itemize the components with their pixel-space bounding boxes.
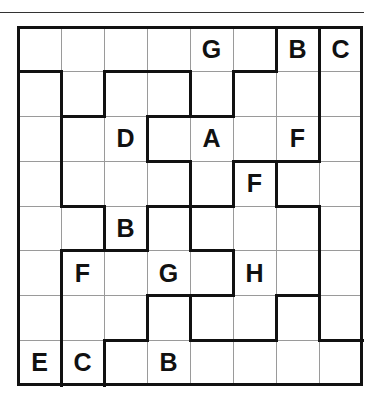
region-border-horizontal	[103, 339, 149, 342]
region-border-vertical	[232, 70, 235, 118]
region-border-vertical	[60, 70, 63, 118]
region-border-vertical	[275, 160, 278, 208]
region-border-vertical	[275, 294, 278, 342]
grid-cell-r0-c1[interactable]	[61, 27, 104, 72]
grid-cell-r5-c4[interactable]	[190, 251, 233, 296]
region-border-horizontal	[275, 160, 321, 163]
top-rule-divider	[0, 12, 364, 13]
grid-cell-r1-c0[interactable]	[18, 72, 61, 117]
grid-cell-r4-c2[interactable]: B	[104, 206, 147, 251]
grid-cell-r6-c7[interactable]	[319, 296, 362, 341]
grid-cell-r0-c5[interactable]	[233, 27, 276, 72]
grid-cell-r5-c1[interactable]: F	[61, 251, 104, 296]
grid-cell-r0-c0[interactable]	[18, 27, 61, 72]
grid-cell-r5-c3[interactable]: G	[147, 251, 190, 296]
grid-cell-r4-c4[interactable]	[190, 206, 233, 251]
grid-cell-r7-c3[interactable]: B	[147, 340, 190, 385]
grid-cell-r4-c1[interactable]	[61, 206, 104, 251]
region-border-horizontal	[189, 249, 235, 252]
grid-cell-r4-c7[interactable]	[319, 206, 362, 251]
region-border-vertical	[318, 294, 321, 342]
grid-cell-r0-c2[interactable]	[104, 27, 147, 72]
grid-cell-r0-c6[interactable]: B	[276, 27, 319, 72]
region-border-horizontal	[189, 115, 235, 118]
region-border-horizontal	[146, 294, 192, 297]
region-border-vertical	[60, 249, 63, 297]
region-border-horizontal	[60, 205, 106, 208]
grid-cell-r2-c0[interactable]	[18, 117, 61, 162]
grid-cell-r7-c5[interactable]	[233, 340, 276, 385]
region-border-horizontal	[146, 205, 192, 208]
grid-cell-r1-c7[interactable]	[319, 72, 362, 117]
region-border-vertical	[189, 205, 192, 253]
grid-cell-r3-c2[interactable]	[104, 161, 147, 206]
grid-cell-r2-c3[interactable]	[147, 117, 190, 162]
region-border-vertical	[232, 249, 235, 297]
grid-cell-r7-c6[interactable]	[276, 340, 319, 385]
grid-cell-r4-c6[interactable]	[276, 206, 319, 251]
grid-cell-r2-c6[interactable]: F	[276, 117, 319, 162]
grid-cell-r3-c3[interactable]	[147, 161, 190, 206]
grid-cell-r2-c2[interactable]: D	[104, 117, 147, 162]
grid-cell-r3-c1[interactable]	[61, 161, 104, 206]
grid-cell-r7-c4[interactable]	[190, 340, 233, 385]
grid-cell-r2-c5[interactable]	[233, 117, 276, 162]
grid-cell-r4-c0[interactable]	[18, 206, 61, 251]
region-border-vertical	[189, 70, 192, 118]
grid-cell-r4-c5[interactable]	[233, 206, 276, 251]
grid-cell-r7-c2[interactable]	[104, 340, 147, 385]
grid-cell-r5-c5[interactable]: H	[233, 251, 276, 296]
grid-cell-r6-c0[interactable]	[18, 296, 61, 341]
region-border-vertical	[318, 115, 321, 163]
grid-cell-r6-c2[interactable]	[104, 296, 147, 341]
grid-cell-r3-c0[interactable]	[18, 161, 61, 206]
grid-cell-r1-c5[interactable]	[233, 72, 276, 117]
region-border-vertical	[189, 160, 192, 208]
region-border-horizontal	[189, 294, 235, 297]
grid-cell-r3-c4[interactable]	[190, 161, 233, 206]
grid-cell-r0-c3[interactable]	[147, 27, 190, 72]
region-border-horizontal	[17, 70, 63, 73]
grid-cell-r1-c2[interactable]	[104, 72, 147, 117]
grid-cell-r2-c1[interactable]	[61, 117, 104, 162]
region-border-horizontal	[146, 70, 192, 73]
grid-cell-r7-c7[interactable]	[319, 340, 362, 385]
grid-cell-r4-c3[interactable]	[147, 206, 190, 251]
region-border-horizontal	[146, 115, 192, 118]
region-border-horizontal	[232, 70, 278, 73]
grid-cell-r2-c7[interactable]	[319, 117, 362, 162]
region-border-horizontal	[318, 339, 364, 342]
grid-cell-r6-c6[interactable]	[276, 296, 319, 341]
grid-cell-r3-c6[interactable]	[276, 161, 319, 206]
region-border-vertical	[60, 294, 63, 342]
grid-cell-r5-c7[interactable]	[319, 251, 362, 296]
grid-cell-r7-c1[interactable]: C	[61, 340, 104, 385]
grid-cell-r0-c4[interactable]: G	[190, 27, 233, 72]
region-border-vertical	[146, 294, 149, 342]
region-border-horizontal	[103, 70, 149, 73]
grid-cell-r1-c4[interactable]	[190, 72, 233, 117]
grid-cell-r5-c6[interactable]	[276, 251, 319, 296]
region-border-horizontal	[60, 115, 106, 118]
region-border-horizontal	[275, 294, 321, 297]
grid-cell-r5-c2[interactable]	[104, 251, 147, 296]
grid-cell-r6-c3[interactable]	[147, 296, 190, 341]
region-border-vertical	[103, 339, 106, 387]
grid-cell-r1-c6[interactable]	[276, 72, 319, 117]
region-border-horizontal	[60, 249, 106, 252]
grid-cell-r2-c4[interactable]: A	[190, 117, 233, 162]
region-border-horizontal	[103, 249, 149, 252]
region-border-vertical	[60, 115, 63, 163]
region-border-vertical	[318, 249, 321, 297]
grid-cell-r5-c0[interactable]	[18, 251, 61, 296]
region-border-vertical	[318, 70, 321, 118]
grid-cell-r6-c1[interactable]	[61, 296, 104, 341]
grid-cell-r1-c1[interactable]	[61, 72, 104, 117]
grid-cell-r3-c5[interactable]: F	[233, 161, 276, 206]
grid-cell-r7-c0[interactable]: E	[18, 340, 61, 385]
grid-cell-r6-c5[interactable]	[233, 296, 276, 341]
grid-cell-r1-c3[interactable]	[147, 72, 190, 117]
grid-cell-r3-c7[interactable]	[319, 161, 362, 206]
grid-cell-r6-c4[interactable]	[190, 296, 233, 341]
grid-cell-r0-c7[interactable]: C	[319, 27, 362, 72]
